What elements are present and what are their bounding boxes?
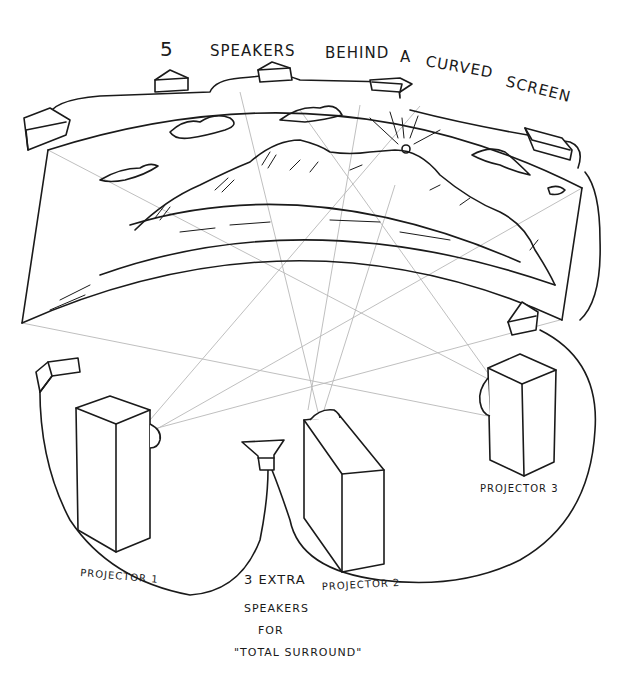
curved-screen	[22, 106, 582, 323]
caption-line-2: SPEAKERS	[244, 602, 309, 615]
screen-right-edge	[562, 188, 582, 320]
caption-line-4: "TOTAL SURROUND"	[234, 646, 362, 659]
caption-line-3: FOR	[258, 624, 284, 637]
speaker-icon	[155, 70, 188, 92]
projector-3: PROJECTOR 3	[480, 354, 559, 494]
cloud-icon	[548, 186, 565, 194]
title-word-behind: BEHIND	[325, 44, 389, 62]
speaker-icon	[370, 78, 412, 92]
speaker-icon	[36, 358, 80, 392]
speaker-icon	[24, 108, 70, 150]
sun-rays	[370, 112, 440, 144]
projector-1: PROJECTOR 1	[76, 396, 160, 585]
projector-2-label: PROJECTOR 2	[322, 577, 401, 592]
caption-line-1: 3 EXTRA	[244, 572, 306, 587]
title-word-a: A	[400, 48, 411, 66]
water-top	[130, 204, 520, 262]
screen-left-edge	[22, 150, 48, 323]
title-word-5: 5	[160, 37, 174, 61]
speaker-icon	[258, 62, 292, 82]
water-bottom	[100, 240, 555, 285]
projector-3-label: PROJECTOR 3	[480, 483, 559, 494]
title-word-screen: SCREEN	[504, 72, 573, 106]
cloud-icon	[100, 164, 158, 181]
title-word-curved: CURVED	[424, 52, 494, 82]
speaker-icon	[525, 128, 572, 160]
projector-1-label: PROJECTOR 1	[80, 567, 159, 585]
screen-bottom-edge	[22, 261, 562, 323]
curved-screen-diagram: 5 SPEAKERS BEHIND A CURVED SCREEN	[0, 0, 622, 687]
projector-2: PROJECTOR 2	[304, 410, 401, 592]
diagram-title: 5 SPEAKERS BEHIND A CURVED SCREEN	[160, 37, 573, 106]
speaker-icon	[242, 440, 284, 470]
title-word-speakers: SPEAKERS	[210, 42, 296, 60]
